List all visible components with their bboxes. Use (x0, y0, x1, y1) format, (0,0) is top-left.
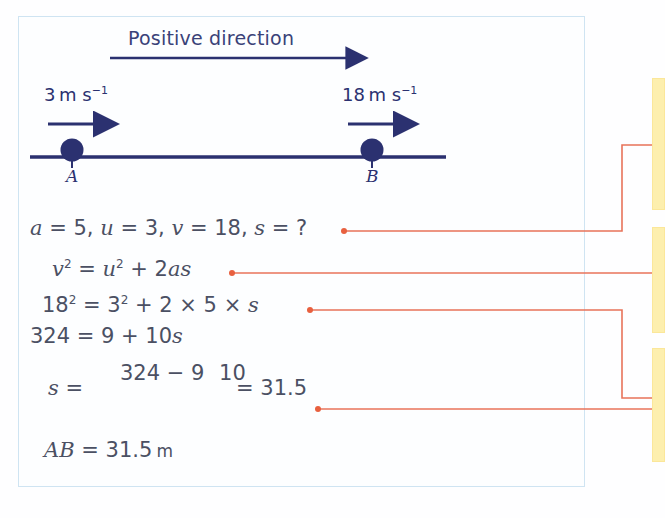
given-s-value: = ? (265, 216, 307, 240)
given-u-var: u (100, 216, 114, 240)
subst-rhs: 3 (107, 293, 120, 317)
figure-root: Positive direction 3 m s−1 18 m s−1 A B … (0, 0, 665, 518)
formula-u: u (102, 257, 116, 281)
fraction-result: = 31.5 (236, 376, 307, 400)
answer-ab: AB (44, 438, 75, 462)
speed-a-unit: m s (59, 84, 92, 105)
given-u-value: = 3, (114, 216, 172, 240)
equation-simplified: 324 = 9 + 10s (30, 318, 360, 354)
equation-block: a = 5, u = 3, v = 18, s = ? v2 = u2 + 2a… (30, 210, 360, 468)
callout-box-1 (652, 78, 665, 210)
speed-a-value: 3 (44, 84, 55, 105)
speed-b-exponent: −1 (401, 84, 417, 97)
formula-as: as (168, 257, 191, 281)
given-v-var: v (171, 216, 183, 240)
given-s-var: s (254, 216, 265, 240)
formula-equals: = (72, 257, 103, 281)
callout-box-3 (652, 348, 665, 462)
subst-lhs: 18 (42, 293, 69, 317)
simplified-s: s (172, 324, 183, 348)
fraction-equals: = (59, 376, 83, 400)
equation-given: a = 5, u = 3, v = 18, s = ? (30, 210, 360, 246)
fraction-s-var: s (48, 376, 59, 400)
answer-unit: m (157, 441, 174, 461)
equation-fraction: s = 324 − 9 10 = 31.5 (30, 354, 360, 428)
speed-b-value: 18 (342, 84, 365, 105)
given-a-var: a (30, 216, 43, 240)
formula-plus: + 2 (124, 257, 168, 281)
answer-value: = 31.5 (75, 438, 153, 462)
formula-u-power: 2 (116, 257, 124, 271)
subst-tail: + 2 × 5 × (128, 293, 248, 317)
equation-answer: AB = 31.5 m (30, 432, 360, 468)
fraction-body: 324 − 9 10 (120, 358, 232, 388)
callout-box-2 (652, 227, 665, 333)
point-label-a: A (66, 166, 78, 186)
subst-equals: = (76, 293, 107, 317)
speed-label-b: 18 m s−1 (342, 84, 417, 105)
positive-direction-label: Positive direction (128, 27, 294, 49)
equation-formula: v2 = u2 + 2as (30, 246, 360, 282)
equation-substitution: 182 = 32 + 2 × 5 × s (30, 282, 360, 318)
subst-s: s (248, 293, 259, 317)
fraction-numerator: 324 − 9 (120, 361, 204, 385)
speed-b-unit: m s (369, 84, 402, 105)
point-label-b: B (366, 166, 379, 186)
fraction-lead: s = (48, 376, 83, 400)
speed-label-a: 3 m s−1 (44, 84, 108, 105)
formula-v-power: 2 (64, 257, 72, 271)
given-a-value: = 5, (43, 216, 101, 240)
formula-v: v (52, 257, 64, 281)
simplified-lhs: 324 = 9 + 10 (30, 324, 172, 348)
given-v-value: = 18, (183, 216, 254, 240)
speed-a-exponent: −1 (92, 84, 108, 97)
